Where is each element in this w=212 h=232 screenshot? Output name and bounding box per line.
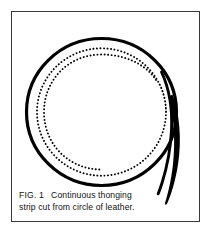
caption-figure-label: FIG. 1: [19, 190, 44, 200]
caption-line-1-text: Continuous thonging: [51, 190, 132, 200]
thonging-strip-outer-edge: [27, 39, 177, 186]
cut-line-dotted-spiral-inner: [44, 55, 156, 170]
caption-line-2: strip cut from circle of leather.: [19, 202, 191, 213]
figure-caption: FIG. 1Continuous thonging strip cut from…: [19, 190, 191, 213]
caption-line-1: FIG. 1Continuous thonging: [19, 190, 191, 201]
cut-line-dotted-spiral-outer: [37, 48, 166, 175]
figure-plate: FIG. 1Continuous thonging strip cut from…: [0, 0, 212, 232]
figure-frame-border: FIG. 1Continuous thonging strip cut from…: [11, 11, 200, 222]
strip-inner-edge: [158, 72, 171, 194]
